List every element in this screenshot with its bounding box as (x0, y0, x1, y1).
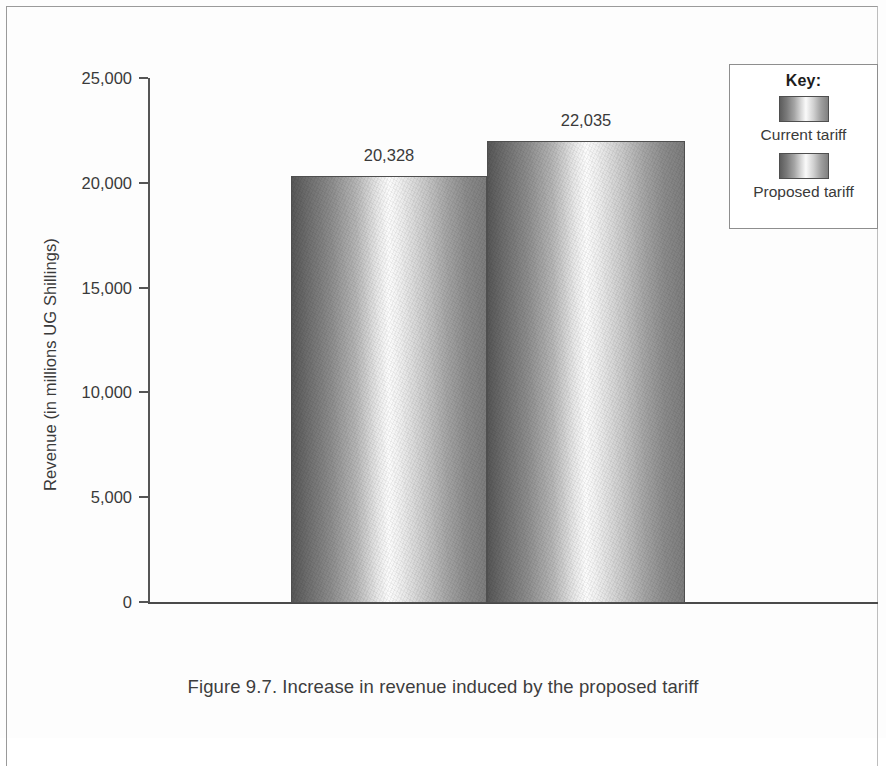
y-axis-tick-label: 10,000 (82, 381, 132, 403)
tick-mark-icon (139, 391, 148, 393)
y-axis-label: Revenue (in millions UG Shillings) (41, 150, 60, 580)
legend-title: Key: (730, 72, 877, 90)
chart-legend: Key: Current tariff Proposed tariff (729, 64, 878, 229)
tick-mark-icon (139, 601, 148, 603)
bar-texture (292, 177, 486, 602)
bar-value-label-current: 20,328 (279, 146, 499, 165)
y-axis-tick-label: 25,000 (82, 67, 132, 89)
y-axis-tick-label: 0 (123, 591, 132, 613)
legend-item-label: Current tariff (730, 125, 877, 145)
legend-item-label: Proposed tariff (730, 182, 877, 202)
tick-mark-icon (139, 77, 148, 79)
legend-swatch-icon (779, 96, 829, 122)
bar-current-tariff[interactable] (291, 176, 487, 603)
bar-value-label-proposed: 22,035 (476, 111, 696, 130)
legend-item-proposed-tariff[interactable]: Proposed tariff (730, 153, 877, 202)
bar-proposed-tariff[interactable] (487, 141, 685, 603)
legend-swatch-icon (779, 153, 829, 179)
legend-item-current-tariff[interactable]: Current tariff (730, 96, 877, 145)
y-axis-line (148, 78, 150, 604)
y-axis-tick-label: 20,000 (82, 172, 132, 194)
y-axis-tick-label: 15,000 (82, 277, 132, 299)
figure-caption: Figure 9.7. Increase in revenue induced … (0, 676, 886, 698)
y-axis-tick-label: 5,000 (91, 486, 132, 508)
tick-mark-icon (139, 496, 148, 498)
bar-texture (488, 142, 684, 602)
tick-mark-icon (139, 287, 148, 289)
tick-mark-icon (139, 182, 148, 184)
